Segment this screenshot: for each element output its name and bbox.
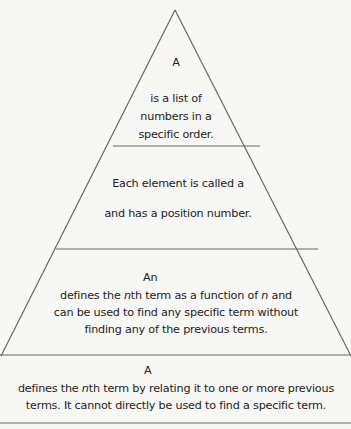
- tier1-line-2: numbers in a: [140, 111, 211, 122]
- text-part: defines the: [60, 289, 124, 302]
- text-part: defines the: [18, 382, 82, 395]
- tier2-line-2: and has a position number.: [104, 208, 251, 219]
- text-part: as a function of: [171, 289, 261, 302]
- italic-n: n: [82, 382, 89, 395]
- tier4-line-1: defines the nth term by relating it to o…: [18, 383, 334, 394]
- tier1-line-3: specific order.: [138, 129, 213, 140]
- text-part: by relating it to one or more previous: [129, 382, 334, 395]
- tier1-line-1: is a list of: [150, 93, 201, 104]
- italic-n: n: [124, 289, 131, 302]
- tier4-line-2: terms. It cannot directly be used to fin…: [26, 400, 326, 411]
- tier3-term-label: An: [143, 272, 157, 283]
- text-part: th term: [89, 382, 129, 395]
- tier3-line-3: finding any of the previous terms.: [84, 324, 267, 335]
- text-part: and: [268, 289, 292, 302]
- text-part: th term: [131, 289, 171, 302]
- tier2-line-1: Each element is called a: [112, 178, 244, 189]
- tier3-line-1: defines the nth term as a function of n …: [60, 290, 292, 301]
- tier4-term-label: A: [144, 365, 151, 376]
- tier3-line-2: can be used to find any specific term wi…: [54, 307, 298, 318]
- tier1-term-label: A: [172, 57, 179, 68]
